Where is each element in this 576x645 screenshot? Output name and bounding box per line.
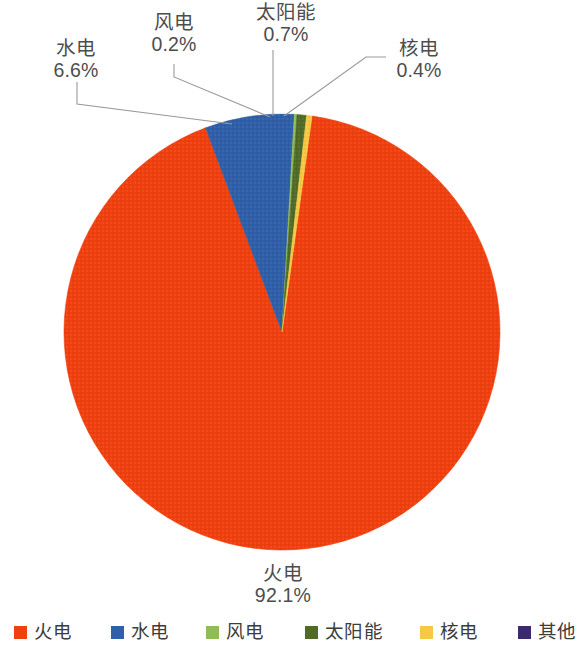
legend-item[interactable]: 火电 xyxy=(14,620,73,645)
leader-line-hydro xyxy=(77,82,232,124)
callout-solar-percent: 0.7% xyxy=(238,24,334,46)
legend-item[interactable]: 核电 xyxy=(420,620,479,645)
pie-texture-overlay xyxy=(64,114,500,550)
leader-line-nuclear xyxy=(284,57,386,116)
callout-hydro-category: 水电 xyxy=(28,38,124,60)
callout-wind-percent: 0.2% xyxy=(128,34,220,56)
callout-solar: 太阳能 0.7% xyxy=(238,2,334,46)
callout-solar-category: 太阳能 xyxy=(238,2,334,24)
callout-wind-category: 风电 xyxy=(128,12,220,34)
callout-hydro-percent: 6.6% xyxy=(28,60,124,82)
legend-item-label: 风电 xyxy=(226,623,265,642)
legend-item[interactable]: 其他 xyxy=(518,620,576,645)
legend-swatch-icon xyxy=(518,626,531,639)
legend-swatch-icon xyxy=(206,626,219,639)
legend-item-label: 太阳能 xyxy=(325,623,383,642)
leader-line-wind xyxy=(174,64,270,117)
legend-swatch-icon xyxy=(420,626,433,639)
callout-nuclear: 核电 0.4% xyxy=(372,38,466,82)
callout-nuclear-category: 核电 xyxy=(372,38,466,60)
legend-item[interactable]: 水电 xyxy=(111,620,170,645)
callout-hydro: 水电 6.6% xyxy=(28,38,124,82)
callout-thermal: 火电 92.1% xyxy=(196,563,370,607)
legend-item-label: 其他 xyxy=(538,623,576,642)
callout-thermal-category: 火电 xyxy=(196,563,370,585)
callout-nuclear-percent: 0.4% xyxy=(372,60,466,82)
legend-item-label: 核电 xyxy=(440,623,479,642)
legend-swatch-icon xyxy=(305,626,318,639)
legend-item[interactable]: 太阳能 xyxy=(305,620,383,645)
callout-wind: 风电 0.2% xyxy=(128,12,220,56)
legend-swatch-icon xyxy=(111,626,124,639)
callout-thermal-percent: 92.1% xyxy=(196,585,370,607)
pie-chart-canvas xyxy=(0,0,576,645)
legend-swatch-icon xyxy=(14,626,27,639)
legend-item-label: 水电 xyxy=(131,623,170,642)
legend-item[interactable]: 风电 xyxy=(206,620,265,645)
pie-chart: 水电 6.6% 风电 0.2% 太阳能 0.7% 核电 0.4% 火电 92.1… xyxy=(0,0,576,645)
legend-item-label: 火电 xyxy=(34,623,73,642)
chart-legend: 火电水电风电太阳能核电其他 xyxy=(0,620,576,645)
